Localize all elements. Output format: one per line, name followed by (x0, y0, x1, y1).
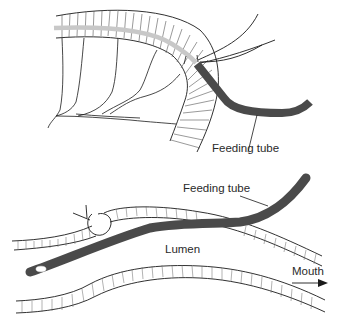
label-lumen: Lumen (165, 244, 200, 256)
suture-3 (200, 45, 262, 62)
suture-2 (200, 40, 275, 63)
label-mouth: Mouth (292, 266, 324, 278)
tube-side-hole (36, 266, 46, 272)
purse-string-suture (88, 213, 111, 235)
label-feeding-tube-top: Feeding tube (212, 143, 279, 155)
gastric-folds (48, 38, 180, 128)
top-panel (48, 10, 310, 152)
diagram-canvas (0, 0, 341, 333)
bowel-upper-left-outer (12, 226, 92, 241)
label-feeding-tube-bottom: Feeding tube (183, 183, 250, 195)
bowel-lower-outer (16, 266, 325, 301)
wall-hatching-lower (22, 265, 312, 313)
feeding-tube-bottom (30, 178, 306, 272)
feeding-tube-top (197, 64, 310, 113)
mouth-arrow-head (318, 279, 328, 287)
organ-inner-wall (56, 37, 187, 141)
suture-1 (198, 14, 258, 60)
leader-line-bottom (240, 196, 268, 206)
